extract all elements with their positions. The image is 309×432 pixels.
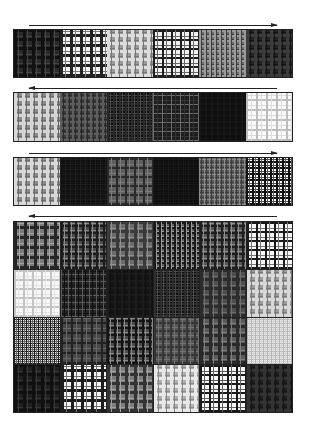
swatch-tile [154,318,200,365]
swatch-tile [154,222,200,269]
swatch-tile [14,365,60,412]
plaid-texture [14,30,60,77]
plaid-texture [61,365,107,412]
plaid-texture [199,158,245,205]
strip-2 [13,92,293,142]
plaid-texture [14,365,60,412]
plaid-texture [60,158,106,205]
swatch-tile [247,222,293,269]
swatch-tile [200,365,246,412]
plaid-texture [200,318,246,365]
arrow-right-icon [29,25,277,26]
plaid-texture [199,30,245,77]
swatch-tile [14,318,60,365]
swatch-tile [107,158,153,205]
swatch-tile [14,270,60,317]
plaid-texture [200,222,246,269]
plaid-texture [154,222,200,269]
swatch-tile [60,93,106,141]
swatch-tile [154,270,200,317]
swatch-tile [107,222,153,269]
plaid-texture [246,158,292,205]
swatch-tile [60,158,106,205]
plaid-texture [247,270,293,317]
plaid-texture [154,318,200,365]
arrow-right-icon [29,153,277,154]
swatch-tile [247,318,293,365]
plaid-texture [200,365,246,412]
plaid-texture [61,318,107,365]
swatch-tile [14,222,60,269]
swatch-tile [107,318,153,365]
plaid-texture [246,93,292,141]
swatch-tile [61,222,107,269]
plaid-texture [14,93,60,141]
swatch-tile [199,30,245,77]
plaid-texture [14,158,60,205]
plaid-texture [107,270,153,317]
plaid-texture [107,318,153,365]
plaid-texture [154,270,200,317]
strip-3 [13,157,293,206]
plaid-texture [14,318,60,365]
plaid-texture [247,222,293,269]
swatch-tile [61,365,107,412]
plaid-texture [200,270,246,317]
swatch-tile [200,270,246,317]
swatch-tile [61,270,107,317]
swatch-tile [61,318,107,365]
plaid-texture [153,158,199,205]
plaid-texture [154,365,200,412]
plaid-texture [247,318,293,365]
arrow-left-icon [29,216,277,217]
swatch-tile [153,30,199,77]
plaid-texture [107,93,153,141]
swatch-tile [154,365,200,412]
swatch-tile [14,93,60,141]
arrowhead-icon [271,151,278,155]
arrowhead-icon [28,214,35,218]
plaid-texture [199,93,245,141]
swatch-tile [199,93,245,141]
plaid-texture [107,30,153,77]
swatch-tile [247,270,293,317]
swatch-tile [246,93,292,141]
swatch-tile [107,365,153,412]
swatch-tile [153,158,199,205]
plaid-texture [14,222,60,269]
arrow-left-icon [29,88,277,89]
swatch-tile [200,318,246,365]
arrowhead-icon [271,23,278,27]
plaid-texture [61,222,107,269]
swatch-tile [199,158,245,205]
swatch-tile [14,158,60,205]
swatch-tile [247,365,293,412]
swatch-tile [60,30,106,77]
plaid-texture [61,270,107,317]
plaid-texture [107,158,153,205]
plaid-texture [153,93,199,141]
swatch-tile [107,93,153,141]
plaid-texture [107,222,153,269]
swatch-tile [246,158,292,205]
grid-4x6 [13,221,293,413]
swatch-tile [107,30,153,77]
plaid-texture [14,270,60,317]
plaid-texture [153,30,199,77]
strip-1 [13,29,293,78]
swatch-tile [14,30,60,77]
plaid-texture [246,30,292,77]
plaid-texture [247,365,293,412]
plaid-texture [60,30,106,77]
arrowhead-icon [28,86,35,90]
swatch-tile [107,270,153,317]
plaid-texture [60,93,106,141]
swatch-tile [200,222,246,269]
swatch-tile [246,30,292,77]
plaid-texture [107,365,153,412]
swatch-tile [153,93,199,141]
